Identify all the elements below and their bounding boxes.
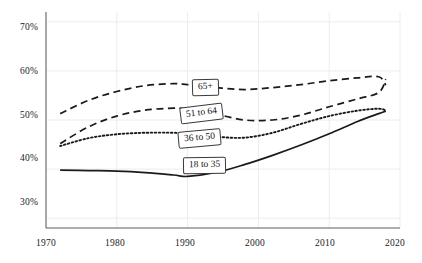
x-tick-label-1970: 1970: [26, 238, 66, 248]
y-tick-label-30: 30%: [4, 197, 38, 207]
x-tick-label-1980: 1980: [95, 238, 135, 248]
x-tick-label-2010: 2010: [305, 238, 345, 248]
x-tick-label-1990: 1990: [165, 238, 205, 248]
y-tick-label-60: 60%: [4, 66, 38, 76]
x-tick-label-2020: 2020: [375, 238, 415, 248]
gridlines: [46, 12, 400, 228]
series-label-65-plus: 65+: [192, 79, 219, 96]
y-tick-label-50: 50%: [4, 110, 38, 120]
line-chart: 70% 60% 50% 40% 30% 1970 1980 1990 2000 …: [0, 0, 422, 263]
series-line-65-: [60, 76, 386, 113]
y-tick-label-40: 40%: [4, 153, 38, 163]
x-tick-label-2000: 2000: [235, 238, 275, 248]
series-label-18-to-35: 18 to 35: [183, 157, 226, 174]
y-tick-label-70: 70%: [4, 22, 38, 32]
